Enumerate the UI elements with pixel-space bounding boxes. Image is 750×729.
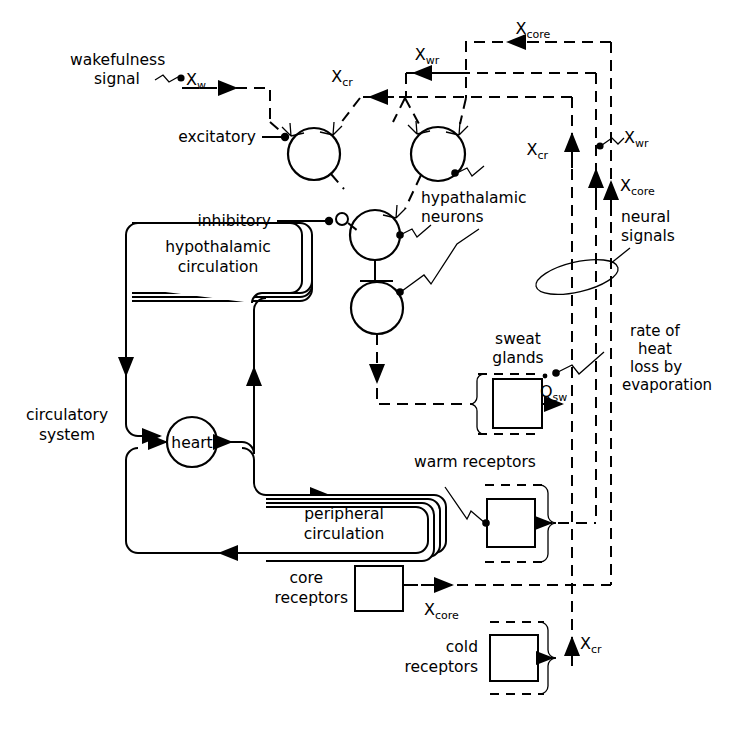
warm-receptors-box	[487, 499, 535, 547]
rate-of-heat-label-3: loss by	[630, 358, 682, 376]
x-cr-bottom-base: X	[580, 634, 591, 653]
core-receptors-label-1: core	[289, 569, 323, 587]
circ-right-up	[224, 442, 254, 454]
core-receptors-box	[355, 566, 403, 611]
x-cr-right-base: X	[526, 140, 537, 159]
svg-text:Xcr: Xcr	[331, 67, 353, 89]
rate-of-heat-label-1: rate of	[630, 322, 680, 340]
rate-of-heat-leader	[558, 352, 604, 374]
svg-text:Xcr: Xcr	[580, 634, 602, 656]
link-xwr-to-left-neuron-branch	[393, 98, 405, 122]
x-w-sub: w	[197, 79, 206, 92]
neural-signals-leader	[610, 248, 630, 264]
sweat-glands-label-2: glands	[492, 349, 543, 367]
diagram-canvas: hypothalamic circulation heart periphera…	[0, 0, 750, 729]
circ-to-peripheral	[242, 448, 416, 495]
svg-text:Xcore: Xcore	[424, 600, 459, 622]
x-cr-right-variable: Xcr	[526, 140, 548, 162]
warm-receptors-label: warm receptors	[414, 453, 536, 471]
rate-of-heat-leader-dot	[552, 369, 560, 377]
inhibitory-open-circle	[336, 213, 348, 225]
svg-text:Xcore: Xcore	[620, 176, 655, 198]
neural-signals-ellipse	[533, 253, 622, 301]
wakefulness-leader-line	[155, 75, 178, 82]
x-core-top-base: X	[516, 19, 527, 38]
hypothalamic-neurons-label-2: neurons	[421, 208, 484, 226]
wakefulness-label-1: wakefulness	[70, 51, 165, 69]
wakefulness-leader-dot	[177, 74, 184, 81]
x-w-base: X	[186, 70, 197, 89]
inhibitory-label: inhibitory	[197, 212, 271, 230]
peripheral-circulation-label-2: circulation	[304, 525, 385, 543]
rate-of-heat-label-4: evaporation	[622, 376, 712, 394]
neuron-output-node	[351, 282, 403, 334]
x-core-right-sub: core	[631, 185, 655, 198]
wakefulness-label-2: signal	[94, 70, 140, 88]
x-wr-top-variable: Xwr	[415, 45, 440, 67]
circ-lower-left-return	[126, 448, 138, 553]
x-wr-right-leader	[602, 138, 624, 145]
q-sw-base: Q	[540, 382, 553, 401]
link-xcr-to-left-neuron	[340, 98, 360, 124]
q-sw-sub: sw	[553, 391, 568, 404]
svg-text:Qsw: Qsw	[540, 382, 567, 404]
svg-text:Xwr: Xwr	[415, 45, 440, 67]
svg-text:Xcore: Xcore	[516, 19, 551, 41]
warm-receptors-leader	[445, 487, 485, 523]
circ-left-down	[126, 287, 160, 436]
sweat-glands-label-1: sweat	[495, 330, 541, 348]
x-wr-right-leader-dot	[596, 142, 603, 149]
neural-signals-label-1: neural	[621, 208, 670, 226]
neuron-excitatory-node	[288, 128, 340, 180]
hypothalamic-circulation-label-2: circulation	[178, 258, 259, 276]
circulatory-system-label-2: system	[39, 426, 95, 444]
neural-signals-label-2: signals	[621, 227, 675, 245]
x-wr-right-variable: Xwr	[624, 128, 649, 150]
x-wr-right-sub: wr	[635, 137, 649, 150]
xcore-top-line	[466, 42, 611, 98]
x-core-top-sub: core	[527, 28, 551, 41]
q-sw-dot-accent	[543, 374, 548, 379]
peripheral-circulation-label-1: peripheral	[304, 505, 383, 523]
cold-receptors-label-2: receptors	[405, 658, 478, 676]
excitatory-label: excitatory	[178, 128, 256, 146]
inhibitory-terminal-dot	[325, 217, 333, 225]
link-right-neuron-to-middle	[405, 175, 421, 209]
hypothalamic-neurons-label-1: hypathalamic	[421, 189, 526, 207]
x-core-bottom-variable: Xcore	[424, 600, 459, 622]
x-core-bottom-base: X	[424, 600, 435, 619]
x-wr-top-sub: wr	[426, 54, 440, 67]
cold-receptors-box	[490, 635, 538, 681]
neuron-callout-leader-middle	[402, 225, 431, 237]
neuron-callout-leader-output	[402, 229, 479, 291]
x-wr-right-base: X	[624, 128, 635, 147]
xw-to-neuron	[270, 122, 284, 134]
xw-signal-path	[182, 88, 270, 122]
x-core-top-variable: Xcore	[516, 19, 551, 41]
circulatory-system-label-1: circulatory	[26, 406, 108, 424]
rate-of-heat-label-2: heat	[638, 340, 672, 358]
x-core-right-variable: Xcore	[620, 176, 655, 198]
circ-right-up-2	[254, 298, 266, 454]
sweat-glands-box	[493, 379, 542, 428]
neuron-callout-dot-middle	[396, 231, 404, 239]
svg-text:Xcr: Xcr	[526, 140, 548, 162]
x-core-bottom-sub: core	[435, 609, 459, 622]
x-cr-top-base: X	[331, 67, 342, 86]
x-cr-top-sub: cr	[342, 76, 353, 89]
link-xcore-to-right-neuron	[460, 98, 466, 124]
cold-receptors-label-1: cold	[446, 638, 478, 656]
x-wr-top-base: X	[415, 45, 426, 64]
x-cr-bottom-variable: Xcr	[580, 634, 602, 656]
neuron-callout-dot-output	[396, 288, 404, 296]
link-left-neuron-to-middle	[331, 174, 344, 189]
hypothalamic-circulation-label-1: hypothalamic	[165, 238, 270, 256]
svg-text:Xwr: Xwr	[624, 128, 649, 150]
warm-receptors-leader-dot	[482, 519, 490, 527]
excitatory-terminal-dot	[281, 133, 289, 141]
x-core-right-base: X	[620, 176, 631, 195]
link-output-to-sweat-glands	[377, 334, 468, 404]
x-cr-top-variable: Xcr	[331, 67, 353, 89]
heart-label: heart	[171, 434, 212, 452]
core-receptors-label-2: receptors	[275, 589, 348, 607]
